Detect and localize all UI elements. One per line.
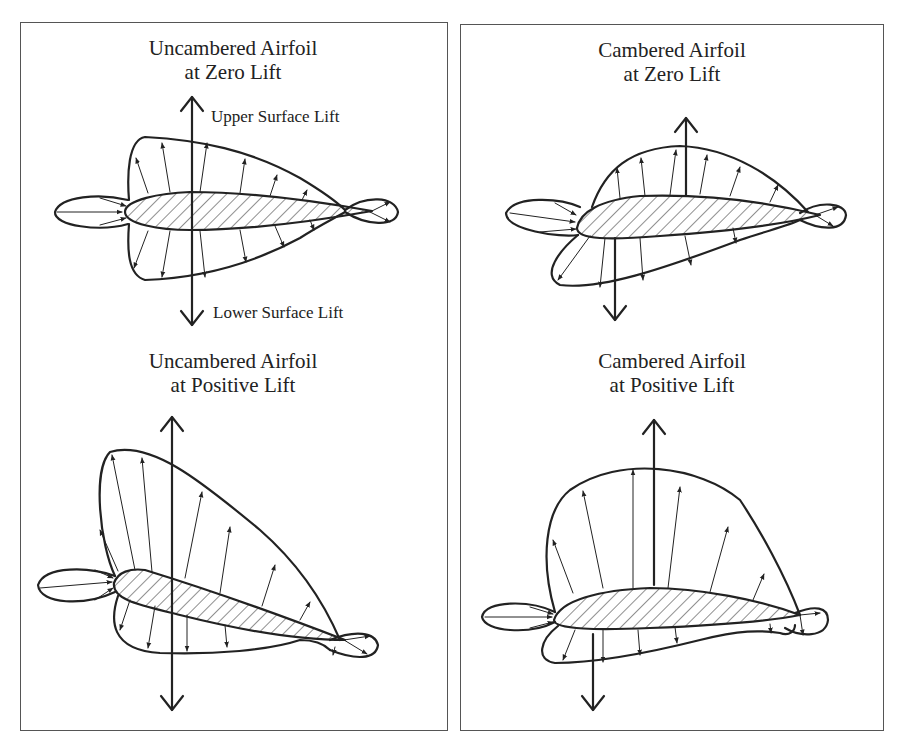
uncambered-positive-lift-diagram (38, 417, 378, 710)
cambered-zero-lift-diagram (506, 118, 846, 320)
pressure-distribution-diagrams (0, 0, 899, 748)
cambered-positive-lift-diagram (482, 420, 828, 710)
uncambered-zero-lift-diagram (55, 97, 398, 325)
